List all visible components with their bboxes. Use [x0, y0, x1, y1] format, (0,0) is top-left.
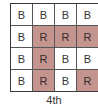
grid-cell-r3-c0: B	[11, 70, 33, 92]
grid-cell-r0-c1: B	[33, 4, 55, 26]
grid-cell-r2-c1: R	[33, 48, 55, 70]
grid-cell-r1-c0: B	[11, 26, 33, 48]
grid-cell-r2-c2: B	[55, 48, 77, 70]
grid-cell-r3-c2: B	[55, 70, 77, 92]
grid-cell-r1-c1: R	[33, 26, 55, 48]
color-grid: B B B B B R R R B R B B B R B R	[10, 3, 98, 92]
grid-cell-r0-c2: B	[55, 4, 77, 26]
grid-caption: 4th	[10, 94, 98, 106]
grid-cell-r0-c3: B	[77, 4, 98, 26]
grid-cell-r3-c3: R	[77, 70, 98, 92]
grid-cell-r3-c1: R	[33, 70, 55, 92]
grid-cell-r0-c0: B	[11, 4, 33, 26]
grid-cell-r2-c0: B	[11, 48, 33, 70]
grid-cell-r2-c3: B	[77, 48, 98, 70]
grid-cell-r1-c2: R	[55, 26, 77, 48]
grid-cell-r1-c3: R	[77, 26, 98, 48]
